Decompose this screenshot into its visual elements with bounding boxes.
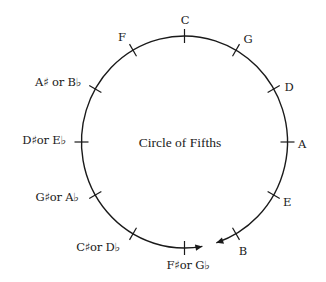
diagram-title: Circle of Fifths [139,136,222,150]
tick-mark [130,44,137,56]
note-label: C♯or D♭ [76,242,120,254]
note-label: F [118,32,126,44]
note-label: B [239,246,247,258]
note-label: G [244,34,253,46]
note-label: A♯ or B♭ [35,77,81,89]
tick-mark [89,192,101,199]
arrow-from-b-icon [216,238,224,244]
note-label: A [298,139,306,151]
circle-of-fifths-diagram: Circle of Fifths CGDAEBF♯or G♭C♯or D♭G♯o… [0,0,326,282]
tick-mark [130,228,137,240]
note-label: C [181,15,190,27]
note-label: G♯or A♭ [35,192,78,204]
note-label: F♯or G♭ [167,260,210,272]
note-label: E [283,197,291,209]
arrow-from-f-sharp-icon [195,244,202,250]
tick-mark [233,44,240,56]
tick-mark [233,228,240,240]
note-label: D [284,82,293,94]
tick-mark [268,192,280,199]
tick-mark [89,86,101,93]
tick-mark [268,86,280,93]
note-label: D♯or E♭ [22,135,65,147]
